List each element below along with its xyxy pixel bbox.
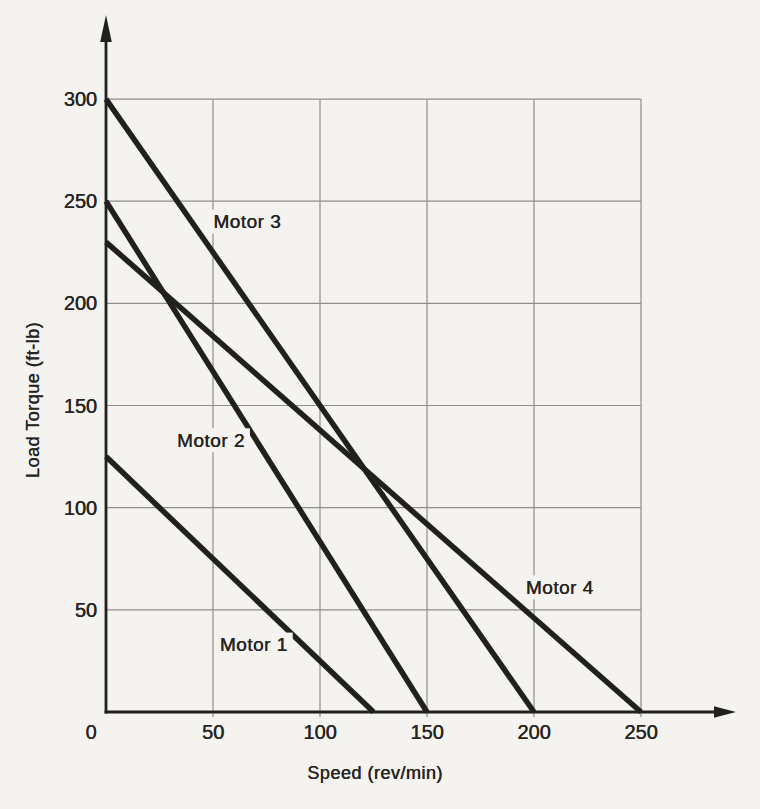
- y-tick-label: 300: [64, 88, 97, 110]
- x-axis-title: Speed (rev/min): [307, 763, 443, 784]
- series-line-motor-4: [106, 242, 641, 712]
- y-tick-label: 250: [64, 190, 97, 212]
- y-tick-label: 100: [64, 497, 97, 519]
- y-tick-label: 50: [75, 599, 97, 621]
- chart-canvas: Motor 1Motor 2Motor 3Motor 4050100150200…: [0, 0, 760, 809]
- x-tick-label: 50: [202, 721, 224, 743]
- series-label-motor-4: Motor 4: [526, 577, 594, 598]
- y-tick-label: 200: [64, 292, 97, 314]
- x-tick-label: 150: [410, 721, 443, 743]
- torque-speed-chart: Motor 1Motor 2Motor 3Motor 4050100150200…: [0, 0, 760, 809]
- series-label-motor-2: Motor 2: [177, 430, 245, 451]
- x-tick-label: 250: [624, 721, 657, 743]
- x-axis-arrowhead-icon: [714, 706, 736, 718]
- x-tick-label: 200: [517, 721, 550, 743]
- x-tick-label: 100: [303, 721, 336, 743]
- y-tick-label: 150: [64, 395, 97, 417]
- x-tick-label: 0: [85, 721, 96, 743]
- y-axis-title: Load Torque (ft-lb): [23, 322, 44, 478]
- y-axis-arrowhead-icon: [100, 15, 112, 42]
- series-line-motor-1: [106, 457, 374, 712]
- series-label-motor-1: Motor 1: [220, 634, 288, 655]
- series-label-motor-3: Motor 3: [213, 211, 281, 232]
